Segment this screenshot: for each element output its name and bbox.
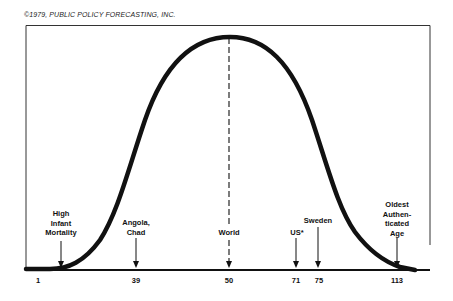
bell-curve-chart	[0, 0, 453, 301]
label-oldest-authenticated-age: Oldest Authen- ticated Age	[383, 200, 411, 238]
world-arrow-icon	[226, 261, 232, 268]
us-arrow-icon	[293, 261, 299, 268]
sweden-arrow-icon	[315, 261, 321, 268]
label-angola-chad: Angola, Chad	[122, 218, 150, 237]
tick-75: 75	[315, 276, 323, 285]
label-us: US*	[290, 228, 303, 238]
angola-arrow-icon	[133, 261, 139, 268]
tick-1: 1	[36, 276, 40, 285]
tick-113: 113	[391, 276, 403, 285]
label-sweden: Sweden	[304, 216, 332, 226]
label-world: World	[217, 228, 240, 238]
tick-71: 71	[292, 276, 300, 285]
tick-50: 50	[225, 276, 233, 285]
tick-39: 39	[132, 276, 140, 285]
label-high-infant-mortality: High Infant Mortality	[45, 209, 76, 238]
